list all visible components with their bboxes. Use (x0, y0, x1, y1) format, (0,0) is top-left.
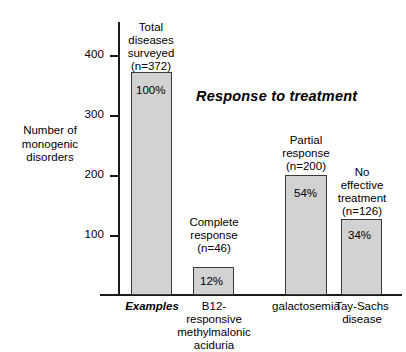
bar-annotation-2: Complete response (n=46) (177, 216, 251, 255)
y-tick-label-300: 300 (68, 109, 104, 121)
chart-title: Response to treatment (196, 88, 357, 104)
bar-value-label-3: 54% (294, 188, 317, 200)
y-tick-label-100: 100 (68, 229, 104, 241)
bar-value-label-1: 100% (136, 85, 165, 97)
bar-value-label-2: 12% (200, 276, 223, 288)
bar-annotation-1: Total diseases surveyed (n=372) (112, 21, 190, 73)
y-tick-label-200: 200 (68, 169, 104, 181)
y-axis-title: Number of monogenic disorders (2, 124, 98, 165)
bar-1 (131, 72, 172, 295)
bar-value-label-4: 34% (348, 230, 371, 242)
x-category-label-2: B12-responsive methylmalonic aciduria (176, 300, 252, 352)
x-category-label-4: Tay-Sachs disease (325, 300, 399, 326)
y-tick-label-400: 400 (68, 49, 104, 61)
bar-annotation-4: No effective treatment (n=126) (325, 166, 399, 218)
